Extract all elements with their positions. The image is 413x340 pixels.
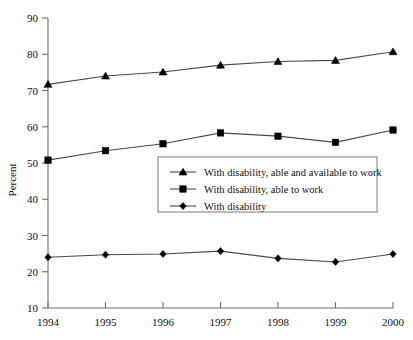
y-axis-title: Percent <box>6 164 18 197</box>
data-point-diamond <box>332 258 338 265</box>
x-tick-label: 1996 <box>152 316 175 328</box>
data-point-square <box>217 130 223 136</box>
data-point-diamond <box>275 255 281 262</box>
data-point-diamond <box>102 251 108 258</box>
x-axis: 1994199519961997199819992000 <box>37 302 405 328</box>
data-point-square <box>45 157 51 163</box>
data-point-square <box>275 133 281 139</box>
y-axis-tick-labels: 102030405060708090 <box>27 12 39 314</box>
legend-item-label: With disability, able to work <box>204 184 324 195</box>
x-tick-label: 1995 <box>95 316 118 328</box>
x-tick-label: 2000 <box>382 316 405 328</box>
legend-item-label: With disability, able and available to w… <box>204 167 382 178</box>
x-axis-tick-labels: 1994199519961997199819992000 <box>37 316 405 328</box>
data-point-triangle <box>389 48 397 55</box>
data-point-diamond <box>390 250 396 257</box>
line-chart: 102030405060708090 199419951996199719981… <box>0 0 413 340</box>
data-point-diamond <box>160 250 166 257</box>
y-tick-label: 70 <box>27 85 39 97</box>
data-point-diamond <box>217 247 223 254</box>
chart-legend: With disability, able and available to w… <box>158 157 382 212</box>
data-point-square <box>390 127 396 133</box>
y-tick-label: 20 <box>27 266 39 278</box>
series-3 <box>45 247 396 265</box>
x-axis-ticks <box>48 302 393 308</box>
data-point-square <box>102 147 108 153</box>
y-tick-label: 50 <box>27 157 39 169</box>
x-tick-label: 1994 <box>37 316 60 328</box>
legend-item-label: With disability <box>204 201 267 212</box>
y-tick-label: 90 <box>27 12 39 24</box>
x-tick-label: 1998 <box>267 316 290 328</box>
x-tick-label: 1999 <box>325 316 348 328</box>
data-point-square <box>332 139 338 145</box>
y-tick-label: 10 <box>27 302 39 314</box>
y-tick-label: 40 <box>27 193 39 205</box>
data-point-diamond <box>45 254 51 261</box>
data-point-square <box>160 141 166 147</box>
legend-marker-square <box>180 186 186 192</box>
series-1 <box>44 48 397 87</box>
y-tick-label: 60 <box>27 121 39 133</box>
y-tick-label: 30 <box>27 230 39 242</box>
chart-canvas: 102030405060708090 199419951996199719981… <box>0 0 413 340</box>
x-tick-label: 1997 <box>210 316 233 328</box>
y-tick-label: 80 <box>27 48 39 60</box>
